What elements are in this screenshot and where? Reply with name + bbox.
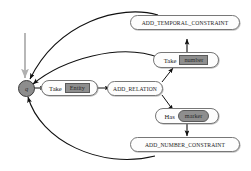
node-add-temporal-constraint[interactable]: ADD_TEMPORAL_CONSTRAINT <box>130 15 240 30</box>
start-state[interactable]: q <box>18 80 35 97</box>
node-take-number-label: Take <box>164 57 177 64</box>
node-add-number-constraint-label: ADD_NUMBER_CONSTRAINT <box>145 142 225 148</box>
node-has-marker-chip: marker <box>178 110 210 122</box>
node-has-marker[interactable]: Has marker <box>155 108 219 124</box>
node-has-marker-label: Has <box>165 113 175 120</box>
node-take-number-chip: number <box>179 55 208 66</box>
node-take-entity-label: Take <box>49 85 62 92</box>
node-add-relation-label: ADD_RELATION <box>113 86 157 92</box>
node-take-entity-chip: Entity <box>65 83 90 94</box>
start-state-label: q <box>25 85 28 92</box>
diagram-canvas: q ADD_TEMPORAL_CONSTRAINT Take number Ta… <box>0 0 251 171</box>
node-add-number-constraint[interactable]: ADD_NUMBER_CONSTRAINT <box>130 137 240 152</box>
edge-add-relation-to-take-number <box>162 68 173 82</box>
node-take-entity[interactable]: Take Entity <box>41 80 98 96</box>
node-take-number[interactable]: Take number <box>153 52 219 68</box>
node-add-relation[interactable]: ADD_RELATION <box>107 81 163 96</box>
node-add-temporal-constraint-label: ADD_TEMPORAL_CONSTRAINT <box>142 20 229 26</box>
